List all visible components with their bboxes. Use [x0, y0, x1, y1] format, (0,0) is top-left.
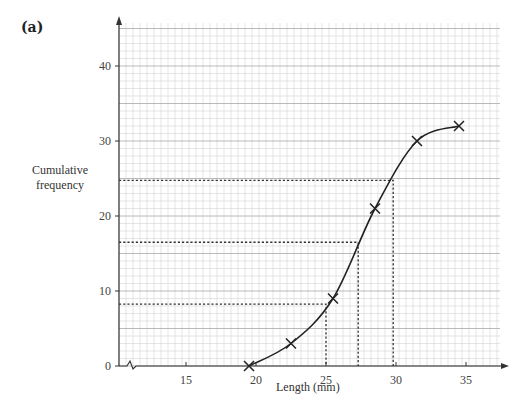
- x-tick-label: 25: [320, 373, 332, 387]
- x-tick-label: 30: [390, 373, 402, 387]
- tick-labels: 1520253035010203040: [99, 59, 472, 387]
- cumulative-frequency-chart: 1520253035010203040: [0, 0, 527, 414]
- x-axis-arrow-icon: [501, 363, 509, 369]
- y-tick-label: 40: [99, 59, 111, 73]
- x-tick-label: 20: [250, 373, 262, 387]
- y-tick-label: 10: [99, 284, 111, 298]
- y-tick-label: 0: [105, 359, 111, 373]
- x-tick-label: 35: [460, 373, 472, 387]
- y-axis-arrow-icon: [116, 16, 122, 25]
- x-tick-label: 15: [180, 373, 192, 387]
- y-tick-label: 30: [99, 134, 111, 148]
- y-tick-label: 20: [99, 209, 111, 223]
- x-axis-line: [119, 361, 502, 369]
- grid: [119, 23, 500, 366]
